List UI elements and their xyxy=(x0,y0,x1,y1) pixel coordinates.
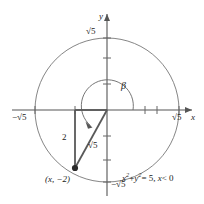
x-right-tick-label: √5 xyxy=(172,113,181,122)
x-left-tick-label: −√5 xyxy=(12,113,27,122)
equation-caption: x2+y2= 5, x< 0 xyxy=(122,174,174,183)
equation-condition-rest: < 0 xyxy=(162,173,174,183)
y-top-tick-label: √5 xyxy=(86,27,95,36)
angle-label-beta: β xyxy=(121,81,126,91)
vertical-leg-label: 2 xyxy=(62,133,67,142)
x-axis-label: x xyxy=(191,113,195,122)
y-axis-arrowhead xyxy=(104,14,110,21)
trig-circle-figure: y x √5 −√5 −√5 √5 β 2 √5 (x, −2) x2+y2= … xyxy=(0,0,204,204)
equation-equals: = 5, xyxy=(141,173,155,183)
angle-arc-arrowhead xyxy=(86,122,93,129)
point-marker xyxy=(72,165,78,171)
y-axis-label: y xyxy=(99,12,103,21)
hypotenuse-segment xyxy=(75,110,107,168)
hypotenuse-label: √5 xyxy=(88,141,97,150)
point-label: (x, −2) xyxy=(45,175,70,184)
